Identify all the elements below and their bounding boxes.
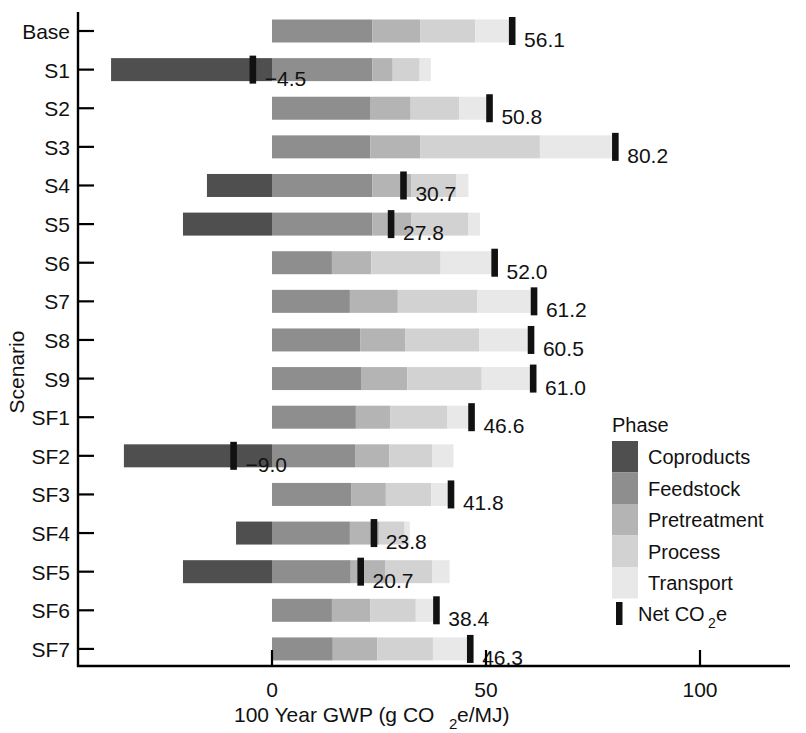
bar-segment	[393, 58, 420, 81]
y-tick-label-s4: S4	[44, 174, 70, 197]
y-tick-label-sf1: SF1	[31, 406, 70, 429]
bar-segment	[420, 135, 540, 158]
net-value-label: 20.7	[373, 569, 414, 592]
bar-segment	[360, 328, 405, 351]
bar-segment	[272, 483, 352, 506]
net-value-label: 38.4	[448, 607, 489, 630]
net-marker	[467, 635, 474, 663]
bar-segment	[477, 290, 533, 313]
y-tick-label-s3: S3	[44, 136, 70, 159]
bar-segment	[361, 367, 407, 390]
y-tick-label-s9: S9	[44, 368, 70, 391]
bar-segment	[370, 599, 415, 622]
net-marker	[357, 558, 364, 586]
bar-segment	[272, 290, 350, 313]
bar-segment	[411, 97, 460, 120]
bar-segment	[540, 135, 615, 158]
bar-segment	[386, 483, 431, 506]
legend-swatch-transport	[612, 567, 638, 599]
bar-segment	[207, 174, 272, 197]
bar-segment	[475, 20, 512, 43]
legend-label-feedstock: Feedstock	[648, 478, 741, 500]
x-axis-title-head: 100 Year GWP (g CO	[234, 703, 434, 726]
net-value-label: 56.1	[524, 28, 565, 51]
legend: Phase CoproductsFeedstockPretreatmentPro…	[612, 414, 764, 631]
bar-segment	[332, 599, 371, 622]
net-value-label: 46.3	[482, 646, 523, 669]
bar-segment	[272, 328, 360, 351]
stacked-bar-chart: BaseS1S2S3S4S5S6S7S8S9SF1SF2SF3SF4SF5SF6…	[0, 0, 806, 733]
net-marker	[388, 210, 395, 238]
net-value-label: 60.5	[543, 337, 584, 360]
net-value-label: 23.8	[386, 530, 427, 553]
bar-segment	[372, 58, 393, 81]
net-marker	[433, 596, 440, 624]
legend-label-coproducts: Coproducts	[648, 446, 750, 468]
bar-segment	[390, 406, 447, 429]
net-marker	[371, 519, 378, 547]
y-tick-label-sf2: SF2	[31, 445, 70, 468]
bar-segment	[420, 20, 475, 43]
bar-segment	[272, 522, 350, 545]
bar-segment	[370, 135, 420, 158]
y-tick-label-s2: S2	[44, 97, 70, 120]
y-tick-label-s8: S8	[44, 329, 70, 352]
bar-segment	[355, 444, 389, 467]
legend-net-label-tail: e	[716, 603, 727, 625]
bar-segment	[272, 637, 333, 660]
legend-label-transport: Transport	[648, 572, 733, 594]
y-axis-ticks	[78, 31, 94, 649]
bar-segment	[272, 367, 361, 390]
net-marker	[230, 442, 237, 470]
bar-segment	[333, 637, 378, 660]
y-tick-label-sf4: SF4	[31, 522, 70, 545]
bar-segment	[407, 367, 481, 390]
x-tick-label-50: 50	[474, 678, 497, 701]
bar-segment	[272, 20, 372, 43]
legend-swatch-coproducts	[612, 441, 638, 473]
net-marker	[400, 171, 407, 199]
net-marker	[531, 287, 538, 315]
legend-labels: CoproductsFeedstockPretreatmentProcessTr…	[648, 446, 764, 594]
x-tick-label-100: 100	[682, 678, 717, 701]
bar-segment	[479, 328, 531, 351]
net-marker	[528, 326, 535, 354]
legend-swatch-feedstock	[612, 473, 638, 505]
net-value-label: 46.6	[483, 414, 524, 437]
bar-segment	[441, 251, 495, 274]
bar-segment	[183, 213, 272, 236]
bar-segment	[272, 174, 372, 197]
bar-segment	[236, 522, 272, 545]
net-marker	[509, 17, 516, 45]
net-marker	[530, 365, 537, 393]
bar-segment	[398, 290, 478, 313]
x-axis-title-tail: e/MJ)	[457, 703, 510, 726]
bar-segment	[332, 251, 371, 274]
bar-segment	[420, 58, 431, 81]
net-marker	[468, 403, 475, 431]
y-tick-label-s5: S5	[44, 213, 70, 236]
bar-segment	[389, 444, 432, 467]
bar-segment	[432, 560, 450, 583]
bar-segment	[370, 97, 411, 120]
net-value-label: 61.0	[545, 376, 586, 399]
legend-label-process: Process	[648, 541, 720, 563]
net-value-label: 30.7	[415, 182, 456, 205]
bar-segment	[456, 174, 468, 197]
y-tick-label-sf3: SF3	[31, 483, 70, 506]
legend-swatches	[612, 441, 638, 599]
y-axis-title: Scenario	[5, 331, 28, 414]
bar-segment	[459, 97, 489, 120]
y-tick-label-sf5: SF5	[31, 561, 70, 584]
bar-segment	[272, 599, 332, 622]
bar-segment	[350, 290, 398, 313]
legend-net-label-subscript: 2	[708, 615, 716, 631]
bar-segment	[272, 406, 356, 429]
legend-net-label-head: Net CO	[638, 603, 705, 625]
y-tick-label-base: Base	[22, 20, 70, 43]
net-value-label: −4.5	[265, 67, 306, 90]
x-axis-tick-labels: 050100	[266, 678, 717, 701]
bar-segment	[377, 637, 433, 660]
bar-segment	[432, 444, 453, 467]
net-marker	[486, 94, 493, 122]
